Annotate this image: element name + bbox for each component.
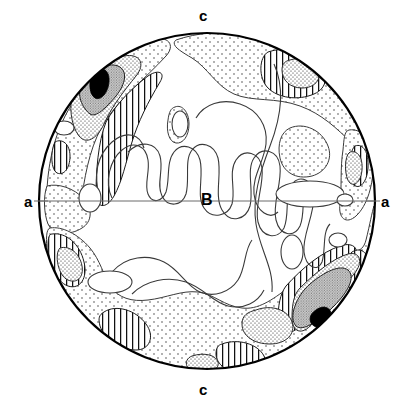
hatch-sliver-left-upper — [52, 141, 70, 174]
contour-loop-lower-right-small — [281, 235, 303, 269]
axis-label-a-left: a — [24, 194, 32, 209]
contour-loop-upper-centre-small — [172, 111, 188, 137]
contour-loop-right-lower-tiny — [329, 233, 347, 247]
dense-stipple-bottom-sliver — [186, 354, 218, 373]
contour-loop-left-of-b — [79, 184, 101, 212]
contour-loop-far-right — [337, 194, 353, 206]
axis-label-c-bottom: c — [199, 382, 207, 397]
axis-label-c-top: c — [199, 8, 207, 23]
axis-label-a-right: a — [381, 194, 389, 209]
contour-loop-lower-left — [88, 271, 132, 293]
axis-label-b-center: B — [201, 192, 212, 208]
contour-loop-right-of-b — [276, 181, 344, 207]
dense-stipple-bottom-right-blob — [242, 308, 293, 344]
dense-stipple-right-mid-blob — [346, 152, 363, 185]
stereogram-figure: c c a a B — [0, 0, 413, 407]
